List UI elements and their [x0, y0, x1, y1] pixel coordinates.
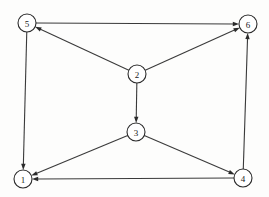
arrow-head-icon: [35, 27, 42, 32]
edge-line: [37, 178, 234, 179]
arrow-head-icon: [32, 177, 38, 181]
edge-2-to-5: [35, 27, 129, 70]
node-label: 3: [134, 128, 139, 138]
arrow-head-icon: [21, 164, 25, 170]
edge-line: [36, 135, 128, 173]
graph-node-1[interactable]: 1: [14, 170, 32, 188]
graph-node-3[interactable]: 3: [127, 123, 145, 141]
edge-2-to-6: [145, 28, 240, 71]
graph-node-6[interactable]: 6: [239, 15, 257, 33]
arrow-head-icon: [228, 170, 235, 174]
arrow-head-icon: [233, 22, 239, 26]
node-label: 5: [25, 19, 30, 29]
edge-4-to-6: [243, 33, 249, 169]
edge-line: [136, 83, 137, 118]
edge-line: [36, 23, 234, 24]
graph-canvas: 123456: [0, 0, 269, 197]
node-label: 1: [21, 175, 26, 185]
arrow-head-icon: [134, 117, 138, 123]
nodes-layer: 123456: [14, 14, 257, 188]
edges-layer: [21, 22, 250, 181]
edge-line: [144, 136, 230, 173]
edge-line: [23, 32, 26, 165]
arrow-head-icon: [233, 28, 240, 33]
edge-5-to-6: [36, 22, 239, 26]
graph-node-5[interactable]: 5: [18, 14, 36, 32]
edge-3-to-1: [31, 135, 127, 175]
arrow-head-icon: [31, 171, 38, 175]
graph-node-4[interactable]: 4: [234, 169, 252, 187]
node-label: 6: [246, 20, 251, 30]
node-label: 4: [241, 174, 246, 184]
edge-line: [39, 29, 128, 70]
edge-line: [145, 30, 235, 71]
edge-3-to-4: [144, 136, 234, 175]
graph-node-2[interactable]: 2: [128, 65, 146, 83]
arrow-head-icon: [245, 33, 249, 39]
edge-4-to-1: [32, 177, 234, 181]
edge-5-to-1: [21, 32, 27, 170]
edge-line: [243, 38, 247, 169]
node-label: 2: [135, 70, 140, 80]
graph-diagram: 123456: [0, 0, 269, 197]
edge-2-to-3: [134, 83, 138, 123]
